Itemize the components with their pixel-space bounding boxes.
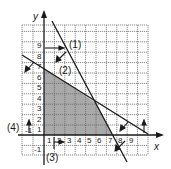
svg-text:2: 2 [57, 136, 62, 145]
constraint-label-1: (1) [69, 39, 81, 50]
svg-text:6: 6 [97, 136, 102, 145]
svg-text:1: 1 [37, 125, 42, 134]
svg-text:4: 4 [77, 136, 82, 145]
lp-graph: y x -1 1 2 3 4 5 6 7 8 9 -1 1 2 3 4 5 6 … [0, 0, 171, 169]
arrow-up-icon [142, 120, 146, 125]
arrow-up-icon [27, 120, 31, 125]
svg-text:3: 3 [67, 136, 72, 145]
svg-text:-1: -1 [34, 145, 42, 154]
svg-text:8: 8 [118, 136, 123, 145]
svg-text:-1: -1 [25, 126, 33, 135]
y-tick-labels: -1 1 2 3 4 5 6 7 8 9 [34, 41, 42, 154]
svg-text:7: 7 [108, 136, 113, 145]
svg-text:9: 9 [37, 41, 42, 50]
svg-text:3: 3 [37, 104, 42, 113]
svg-text:8: 8 [37, 52, 42, 61]
svg-text:5: 5 [37, 83, 42, 92]
arrow-right-icon [59, 46, 64, 50]
svg-text:6: 6 [37, 73, 42, 82]
svg-text:4: 4 [37, 94, 42, 103]
constraint-label-2: (2) [59, 65, 71, 76]
x-axis-label: x [153, 141, 160, 152]
svg-text:1: 1 [47, 136, 52, 145]
y-axis-arrow-icon [41, 10, 47, 18]
svg-text:9: 9 [129, 136, 134, 145]
constraint-label-4: (4) [7, 122, 19, 133]
y-axis-label: y [32, 11, 39, 22]
arrow-down-left-icon [56, 56, 61, 62]
x-axis-arrow-icon [156, 132, 164, 138]
svg-text:2: 2 [37, 115, 42, 124]
svg-text:7: 7 [37, 62, 42, 71]
constraint-label-3: (3) [46, 152, 58, 163]
svg-text:5: 5 [87, 136, 92, 145]
arrow-down-left-icon [115, 145, 120, 151]
